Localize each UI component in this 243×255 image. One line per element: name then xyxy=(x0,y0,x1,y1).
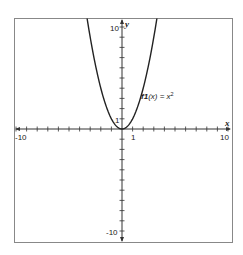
function-exponent: 2 xyxy=(171,91,174,97)
y-tick-label-min: -10 xyxy=(106,228,118,237)
y-tick-label-one: 1 xyxy=(115,116,120,125)
x-tick-label-min: -10 xyxy=(15,133,27,142)
y-tick-label-max: 10 xyxy=(110,24,119,33)
x-axis-label: x xyxy=(224,118,230,128)
graph-plot: x y -10 1 10 10 1 -10 f1(x) = x2 xyxy=(0,0,243,255)
function-body: (x) = x xyxy=(148,92,171,101)
plot-frame xyxy=(15,19,233,243)
function-label: f1(x) = x2 xyxy=(141,91,174,101)
x-tick-label-one: 1 xyxy=(131,133,136,142)
x-tick-label-max: 10 xyxy=(220,133,229,142)
